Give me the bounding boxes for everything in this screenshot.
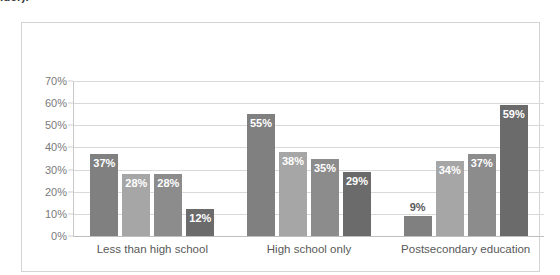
- bar-value-label: 34%: [436, 164, 464, 176]
- y-axis-tick-mark: [68, 213, 73, 214]
- bar: 37%: [90, 154, 118, 236]
- bar: 34%: [436, 161, 464, 236]
- bar: 12%: [186, 209, 214, 236]
- x-axis-category-label: Less than high school: [97, 243, 208, 255]
- y-axis-tick-label: 50%: [27, 119, 67, 131]
- y-axis-tick-mark: [68, 125, 73, 126]
- bar-value-label: 37%: [90, 157, 118, 169]
- y-axis-tick-label: 40%: [27, 141, 67, 153]
- plot-area: 70%60%50%40%30%20%10%0%37%28%28%12%Less …: [74, 81, 544, 236]
- bar-value-label: 12%: [186, 212, 214, 224]
- x-axis-category-label: High school only: [267, 243, 351, 255]
- y-axis-tick-mark: [68, 236, 73, 237]
- bar-value-label: 28%: [154, 177, 182, 189]
- bar-value-label: 38%: [279, 155, 307, 167]
- bar-value-label: 35%: [311, 162, 339, 174]
- bar: 37%: [468, 154, 496, 236]
- bar: 55%: [247, 114, 275, 236]
- bar-value-label: 29%: [343, 175, 371, 187]
- gridline: [74, 103, 544, 104]
- bar-value-label: 37%: [468, 157, 496, 169]
- y-axis-tick-label: 30%: [27, 164, 67, 176]
- bar-value-label: 59%: [500, 108, 528, 120]
- y-axis-tick-mark: [68, 81, 73, 82]
- y-axis-tick-label: 0%: [27, 230, 67, 242]
- bar: 38%: [279, 152, 307, 236]
- bar: 28%: [122, 174, 150, 236]
- bar: 9%: [404, 216, 432, 236]
- y-axis-tick-mark: [68, 103, 73, 104]
- bar: 28%: [154, 174, 182, 236]
- x-axis-category-label: Postsecondary education: [401, 243, 530, 255]
- y-axis-tick-label: 10%: [27, 208, 67, 220]
- bar: 35%: [311, 159, 339, 237]
- y-axis-tick-mark: [68, 169, 73, 170]
- bar-value-label: 55%: [247, 117, 275, 129]
- gridline: [74, 125, 544, 126]
- y-axis-tick-label: 60%: [27, 97, 67, 109]
- y-axis-tick-label: 20%: [27, 186, 67, 198]
- bar-value-label: 9%: [404, 201, 432, 213]
- bar: 59%: [500, 105, 528, 236]
- cut-off-text-fragment: lder).: [0, 0, 29, 3]
- y-axis-tick-label: 70%: [27, 75, 67, 87]
- chart-frame: 70%60%50%40%30%20%10%0%37%28%28%12%Less …: [21, 22, 540, 272]
- gridline: [74, 147, 544, 148]
- bar-value-label: 28%: [122, 177, 150, 189]
- bar: 29%: [343, 172, 371, 236]
- y-axis-tick-mark: [68, 191, 73, 192]
- gridline: [74, 81, 544, 82]
- gridline: [74, 236, 544, 237]
- y-axis-tick-mark: [68, 147, 73, 148]
